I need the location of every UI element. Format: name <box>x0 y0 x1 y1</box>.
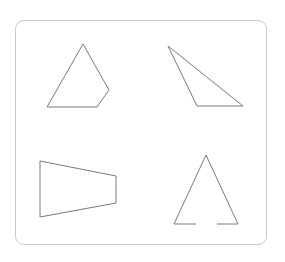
trapezoid-shape <box>40 161 116 217</box>
open-triangle-shape <box>174 155 238 224</box>
shapes-canvas <box>0 0 285 262</box>
pentagon-shape <box>47 44 109 107</box>
obtuse-triangle-shape <box>168 46 243 106</box>
